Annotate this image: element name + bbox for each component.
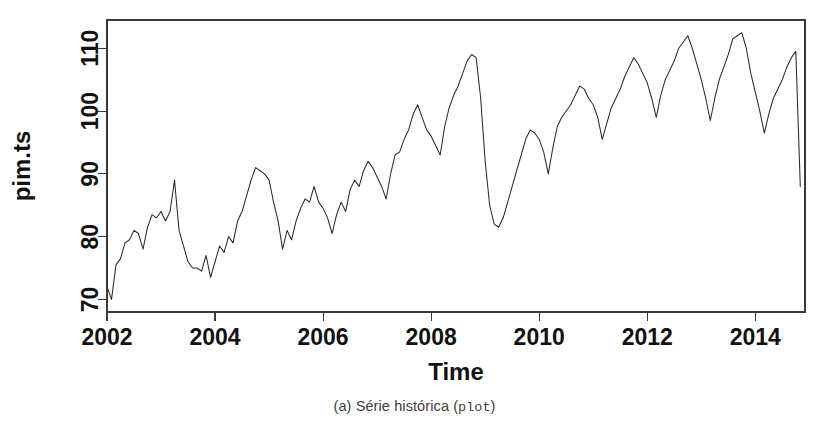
- x-tick-label-2008: 2008: [406, 324, 457, 350]
- x-tick-label-2006: 2006: [298, 324, 349, 350]
- caption-code-plot: plot: [458, 400, 490, 415]
- y-axis-tick-labels: 708090100110: [77, 30, 103, 313]
- x-axis-ticks: [107, 312, 755, 321]
- y-tick-label-70: 70: [77, 287, 103, 313]
- plot-box-border: [107, 20, 805, 312]
- series-line-pim-ts: [107, 33, 800, 300]
- y-tick-label-100: 100: [77, 92, 103, 130]
- time-series-plot: 708090100110 200220042006200820102012201…: [0, 0, 829, 400]
- x-tick-label-2004: 2004: [189, 324, 240, 350]
- x-tick-label-2014: 2014: [730, 324, 781, 350]
- caption-prefix: (a) Série histórica (: [334, 398, 459, 414]
- y-tick-label-90: 90: [77, 161, 103, 187]
- caption-suffix: ): [491, 398, 496, 414]
- plot-frame: [107, 20, 805, 312]
- y-tick-label-110: 110: [77, 30, 103, 67]
- x-tick-label-2010: 2010: [514, 324, 565, 350]
- x-axis-tick-labels: 2002200420062008201020122014: [81, 324, 781, 350]
- y-tick-label-80: 80: [77, 224, 103, 250]
- figure-container: 708090100110 200220042006200820102012201…: [0, 0, 829, 428]
- x-axis-title: Time: [428, 358, 484, 385]
- y-axis-title: pim.ts: [8, 131, 35, 202]
- x-tick-label-2002: 2002: [81, 324, 132, 350]
- figure-caption: (a) Série histórica (plot): [0, 398, 829, 415]
- x-tick-label-2012: 2012: [622, 324, 673, 350]
- series-group: [107, 33, 800, 300]
